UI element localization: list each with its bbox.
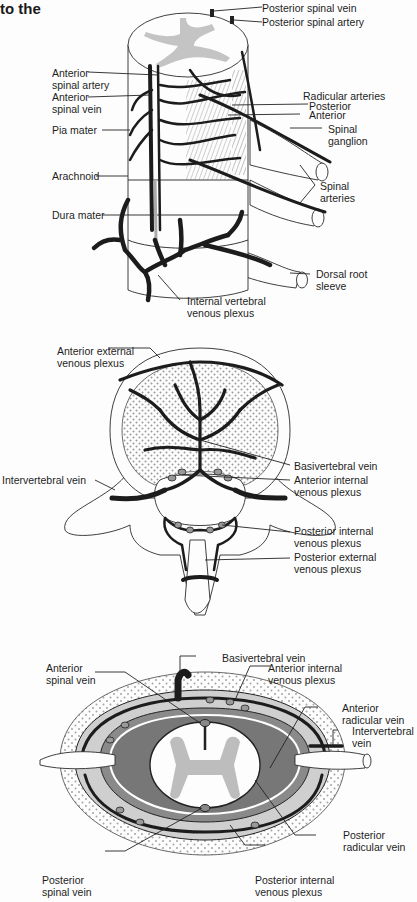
label-dorsal-root-sleeve: Dorsal root sleeve — [316, 268, 367, 292]
nerve-root-left — [40, 752, 115, 769]
label-posterior-internal-venous-plexus-bottom: Posterior internal venous plexus — [255, 874, 334, 898]
label-posterior-external-venous-plexus: Posterior external venous plexus — [294, 551, 376, 575]
label-pia-mater: Pia mater — [52, 124, 97, 136]
root-sleeve-end-upper — [316, 163, 328, 181]
dorsal-root-sleeve-middle — [250, 180, 320, 226]
label-posterior-spinal-vein: Posterior spinal vein — [262, 2, 357, 14]
label-anterior-spinal-vein-bottom: Anterior spinal vein — [46, 662, 96, 686]
label-anterior-spinal-vein: Anterior spinal vein — [52, 91, 102, 115]
label-spinal-ganglion: Spinal ganglion — [328, 123, 368, 147]
label-spinal-arteries: Spinal arteries — [320, 180, 355, 204]
label-posterior-spinal-vein-bottom: Posterior spinal vein — [42, 874, 92, 898]
label-radicular-anterior: Anterior — [309, 109, 346, 121]
label-posterior-radicular-vein: Posterior radicular vein — [343, 829, 405, 853]
posterior-spinal-artery-vessel — [230, 16, 234, 24]
anterior-spinal-vein-node — [200, 720, 210, 727]
label-intervertebral-vein-bottom: Intervertebral vein — [352, 725, 414, 749]
label-anterior-spinal-artery: Anterior spinal artery — [52, 67, 109, 91]
label-anterior-internal-venous-plexus-bottom: Anterior internal venous plexus — [268, 662, 342, 686]
nerve-root-right — [295, 751, 365, 769]
label-basivertebral-vein-middle: Basivertebral vein — [294, 460, 377, 472]
spinal-canal — [155, 474, 246, 526]
posterior-spinal-vein-vessel — [210, 9, 214, 17]
label-posterior-spinal-artery: Posterior spinal artery — [262, 16, 364, 28]
label-anterior-external-venous-plexus: Anterior external venous plexus — [57, 345, 134, 369]
label-posterior-internal-venous-plexus-middle: Posterior internal venous plexus — [294, 525, 373, 549]
label-internal-vertebral-venous-plexus: Internal vertebral venous plexus — [187, 295, 266, 319]
label-intervertebral-vein-middle: Intervertebral vein — [2, 474, 86, 486]
label-anterior-internal-venous-plexus-middle: Anterior internal venous plexus — [294, 474, 368, 498]
label-anterior-radicular-vein: Anterior radicular vein — [342, 702, 404, 726]
label-arachnoid: Arachnoid — [52, 170, 99, 182]
label-dura-mater: Dura mater — [52, 209, 105, 221]
root-sleeve-end-lower — [297, 272, 308, 288]
vertebra-axial-illustration — [0, 340, 417, 660]
nerve-root-end-right — [363, 754, 371, 768]
spinal-canal-cross-section-illustration — [0, 650, 417, 890]
